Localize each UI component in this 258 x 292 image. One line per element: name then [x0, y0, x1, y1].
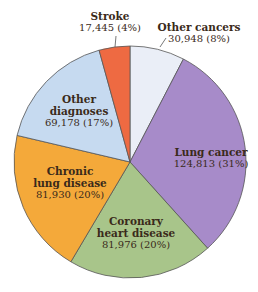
- label-lung-cancer: Lung cancer124,813 (31%): [174, 146, 249, 170]
- label-chronic-lung-disease: Chroniclung disease81,930 (20%): [33, 165, 107, 201]
- label-other-cancers: Other cancers30,948 (8%): [158, 21, 241, 45]
- label-other-diagnoses: Otherdiagnoses69,178 (17%): [45, 93, 113, 129]
- label-coronary-heart-disease: Coronaryheart disease81,976 (20%): [97, 215, 175, 251]
- label-stroke: Stroke17,445 (4%): [79, 10, 141, 34]
- stroke-leader: [115, 36, 116, 47]
